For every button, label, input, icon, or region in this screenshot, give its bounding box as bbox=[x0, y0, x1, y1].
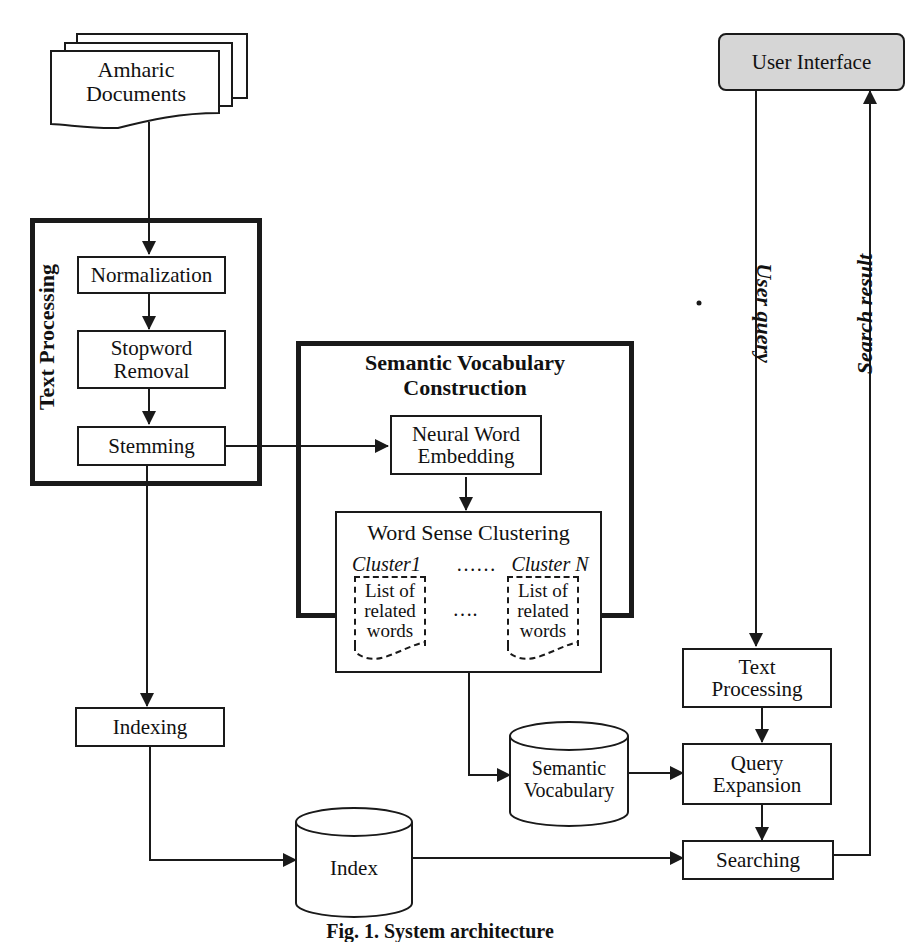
cluster-1-label: Cluster1 bbox=[352, 553, 447, 575]
indexing-step[interactable]: Indexing bbox=[75, 707, 225, 747]
clustering-title: Word Sense Clustering bbox=[367, 521, 569, 544]
cluster-1-line3: words bbox=[356, 621, 424, 641]
user-interface-node[interactable]: User Interface bbox=[718, 33, 905, 91]
cluster-ellipsis: …… bbox=[446, 553, 506, 575]
query-text-processing-line2: Processing bbox=[712, 678, 803, 700]
cluster-n-line1: List of bbox=[509, 581, 577, 601]
user-query-edge-label: User query bbox=[751, 243, 777, 383]
text-processing-group-title: Text Processing bbox=[34, 262, 62, 412]
semantic-store-line1: Semantic bbox=[510, 757, 628, 779]
cluster-middle-dots: …. bbox=[440, 598, 490, 620]
query-expansion-line2: Expansion bbox=[713, 774, 802, 796]
search-result-edge-label: Search result bbox=[852, 224, 878, 404]
cluster-1-word-list[interactable]: List of related words bbox=[354, 576, 426, 646]
semantic-vocabulary-store[interactable]: Semantic Vocabulary bbox=[510, 757, 628, 801]
amharic-documents[interactable]: Amharic Documents bbox=[52, 58, 220, 106]
semantic-group-title: Semantic Vocabulary Construction bbox=[300, 351, 630, 400]
semantic-store-line2: Vocabulary bbox=[510, 779, 628, 801]
arrow-searching-to-ui bbox=[834, 91, 870, 855]
cluster-n-line3: words bbox=[509, 621, 577, 641]
stemming-step[interactable]: Stemming bbox=[77, 426, 226, 466]
cluster-n-word-list[interactable]: List of related words bbox=[507, 576, 579, 646]
stopword-removal-step[interactable]: Stopword Removal bbox=[77, 330, 226, 389]
amharic-documents-line1: Amharic bbox=[52, 58, 220, 82]
figure-caption: Fig. 1. System architecture bbox=[240, 920, 640, 942]
arrow-clustering-to-semantic-vocab bbox=[469, 673, 510, 775]
semantic-group-title-line1: Semantic Vocabulary bbox=[300, 351, 630, 376]
query-text-processing-step[interactable]: Text Processing bbox=[682, 648, 832, 708]
embedding-label-line1: Neural Word bbox=[412, 423, 520, 445]
query-expansion-step[interactable]: Query Expansion bbox=[682, 743, 832, 805]
semantic-group-title-line2: Construction bbox=[300, 376, 630, 401]
user-interface-label: User Interface bbox=[752, 51, 872, 73]
cluster-n-line2: related bbox=[509, 601, 577, 621]
normalization-step[interactable]: Normalization bbox=[77, 256, 226, 294]
stray-dot bbox=[697, 301, 702, 306]
arrow-indexing-to-index bbox=[150, 746, 296, 860]
normalization-label: Normalization bbox=[91, 264, 212, 286]
query-text-processing-line1: Text bbox=[738, 656, 775, 678]
cluster-1-line2: related bbox=[356, 601, 424, 621]
stemming-label: Stemming bbox=[108, 435, 194, 457]
neural-word-embedding[interactable]: Neural Word Embedding bbox=[390, 415, 542, 475]
searching-label: Searching bbox=[716, 849, 800, 871]
indexing-label: Indexing bbox=[113, 716, 188, 738]
amharic-documents-line2: Documents bbox=[52, 82, 220, 106]
cluster-n-label: Cluster N bbox=[500, 553, 600, 575]
cluster-1-line1: List of bbox=[356, 581, 424, 601]
query-expansion-line1: Query bbox=[731, 752, 783, 774]
stopword-label-line2: Removal bbox=[114, 360, 190, 382]
stopword-label-line1: Stopword bbox=[111, 337, 193, 359]
searching-step[interactable]: Searching bbox=[682, 840, 834, 880]
index-store-label: Index bbox=[298, 857, 410, 880]
embedding-label-line2: Embedding bbox=[418, 445, 515, 467]
